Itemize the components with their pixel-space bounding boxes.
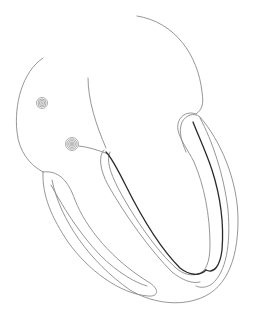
right-lobe-inner [196, 118, 229, 287]
left-atrium-outline [16, 58, 43, 172]
septum-loop-outer [101, 150, 200, 283]
right-lobe-outer [178, 113, 210, 274]
heart-diagram [0, 0, 253, 312]
av-node-icon [66, 138, 79, 151]
top-right-atrium-outline [137, 16, 203, 114]
left-bundle-branch [106, 152, 206, 274]
ventricle-outer-wall [52, 115, 238, 303]
septum-line [88, 78, 106, 148]
sa-node-icon [37, 98, 48, 109]
septum-loop-inner [108, 152, 198, 275]
